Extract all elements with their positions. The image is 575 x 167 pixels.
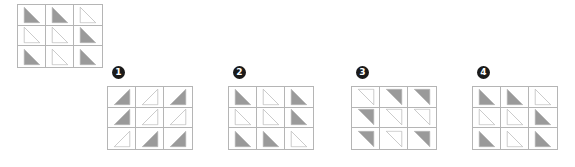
grid-cell [74,5,102,26]
option-1[interactable]: 1 [107,66,193,150]
grid-cell [164,87,192,108]
grid-cell [18,26,46,47]
grid-cell [108,108,136,129]
grid-cell [285,108,313,129]
triangle-bottom-right-filled [355,130,377,147]
triangle-top-left-filled [260,130,282,147]
triangle-top-left-filled [49,6,71,23]
grid-cell [473,87,501,108]
triangle-bottom-right-filled [355,109,377,126]
grid-cell [257,108,285,129]
triangle-bottom-right-outline [383,130,405,147]
grid-cell [164,128,192,149]
triangle-top-left-filled [232,130,254,147]
option-3-label: 3 [356,66,369,79]
grid-cell [108,87,136,108]
grid-cell [285,128,313,149]
triangle-top-left-outline [232,109,254,126]
option-2[interactable]: 2 [228,66,314,150]
grid-cell [46,26,74,47]
grid-cell [18,5,46,26]
triangle-bottom-right-outline [355,88,377,105]
grid-cell [529,128,557,149]
triangle-top-right-filled [167,130,189,147]
triangle-bottom-right-outline [383,109,405,126]
grid-cell [108,128,136,149]
triangle-bottom-right-filled [383,88,405,105]
grid-cell [285,87,313,108]
grid-cell [18,46,46,67]
grid-cell [529,87,557,108]
triangle-top-left-outline [260,109,282,126]
grid-cell [473,128,501,149]
grid-cell [352,128,380,149]
triangle-top-left-outline [504,109,526,126]
triangle-top-left-filled [476,88,498,105]
triangle-top-left-filled [288,109,310,126]
grid-cell [74,46,102,67]
triangle-top-right-outline [111,130,133,147]
triangle-top-right-filled [167,88,189,105]
triangle-top-right-filled [111,88,133,105]
triangle-top-left-outline [49,48,71,65]
grid-cell [164,108,192,129]
option-4-label: 4 [477,66,490,79]
grid-cell [136,87,164,108]
triangle-top-left-filled [532,130,554,147]
option-1-label: 1 [112,66,125,79]
triangle-top-left-filled [476,130,498,147]
grid-cell [408,87,436,108]
option-3-grid[interactable] [351,86,437,150]
triangle-top-right-outline [139,88,161,105]
triangle-top-left-filled [532,109,554,126]
triangle-bottom-right-filled [411,88,433,105]
grid-cell [352,108,380,129]
grid-cell [408,108,436,129]
stimulus-grid [17,4,103,68]
grid-cell [408,128,436,149]
triangle-top-left-outline [49,27,71,44]
grid-cell [501,108,529,129]
option-2-label: 2 [233,66,246,79]
triangle-top-right-outline [139,109,161,126]
grid-cell [257,128,285,149]
option-4-grid[interactable] [472,86,558,150]
option-1-grid[interactable] [107,86,193,150]
triangle-top-left-filled [288,88,310,105]
triangle-top-left-outline [532,88,554,105]
triangle-bottom-right-filled [411,130,433,147]
grid-cell [74,26,102,47]
triangle-top-left-filled [77,48,99,65]
grid-cell [501,87,529,108]
grid-cell [46,46,74,67]
grid-cell [136,108,164,129]
triangle-top-left-outline [21,27,43,44]
grid-cell [352,87,380,108]
grid-cell [229,108,257,129]
grid-cell [501,128,529,149]
triangle-top-left-outline [260,88,282,105]
triangle-top-left-filled [21,6,43,23]
triangle-top-left-filled [504,88,526,105]
triangle-top-right-filled [111,109,133,126]
triangle-top-right-outline [167,109,189,126]
triangle-bottom-right-outline [411,109,433,126]
option-4[interactable]: 4 [472,66,558,150]
triangle-top-left-filled [77,27,99,44]
triangle-top-left-outline [77,6,99,23]
grid-cell [136,128,164,149]
grid-cell [46,5,74,26]
grid-cell [229,87,257,108]
triangle-top-left-filled [232,88,254,105]
triangle-top-left-filled [21,48,43,65]
option-3[interactable]: 3 [351,66,437,150]
grid-cell [473,108,501,129]
option-2-grid[interactable] [228,86,314,150]
grid-cell [380,128,408,149]
triangle-top-left-outline [504,130,526,147]
grid-cell [257,87,285,108]
triangle-top-right-filled [139,130,161,147]
grid-cell [380,108,408,129]
grid-cell [380,87,408,108]
grid-cell [529,108,557,129]
